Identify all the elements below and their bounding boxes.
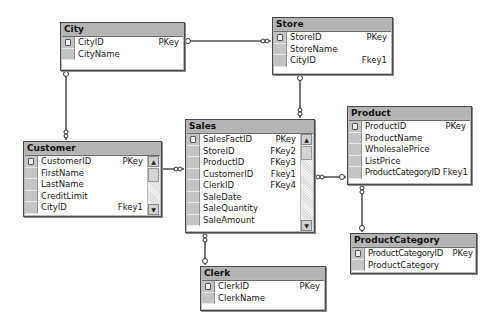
key-end-icon	[64, 72, 69, 77]
scroll-down-button[interactable]: ▼	[301, 220, 312, 231]
key-end-icon	[203, 259, 208, 264]
column-row[interactable]: CreditLimit	[25, 191, 147, 203]
table-productcategory[interactable]: ProductCategory ProductCategoryID PKey P…	[350, 233, 477, 274]
key-end-icon	[340, 175, 345, 180]
column-row[interactable]: CityID Fkey1	[25, 202, 147, 214]
column-row[interactable]: StoreName	[274, 44, 391, 56]
table-city[interactable]: City CityID PKey CityName	[60, 22, 185, 71]
scroll-thumb[interactable]	[301, 146, 312, 160]
column-row[interactable]: CityID Fkey1	[274, 55, 391, 67]
table-title: ProductCategory	[351, 234, 476, 246]
infinity-end-icon	[360, 186, 364, 194]
vertical-scrollbar[interactable]: ▲ ▼	[300, 134, 313, 231]
column-row[interactable]: SaleAmount	[187, 215, 300, 227]
table-title: Product	[348, 107, 471, 119]
column-row[interactable]: ProductCategory	[352, 260, 475, 272]
infinity-end-icon	[203, 234, 207, 242]
primary-key-icon	[277, 34, 283, 41]
column-row[interactable]: LastName	[25, 179, 147, 191]
column-row[interactable]: WholesalePrice	[349, 144, 470, 156]
table-clerk[interactable]: Clerk ClerkID PKey ClerkName	[200, 266, 326, 311]
column-row[interactable]: SaleQuantity	[187, 203, 300, 215]
table-title: Clerk	[201, 267, 325, 279]
primary-key-icon	[355, 250, 361, 257]
column-row[interactable]: ProductID FKey3	[187, 157, 300, 169]
primary-key-icon	[65, 39, 71, 46]
column-row[interactable]: SaleDate	[187, 192, 300, 204]
infinity-end-icon	[316, 175, 324, 179]
table-title: Store	[273, 18, 392, 30]
key-end-icon	[298, 76, 303, 81]
column-row[interactable]: CityID PKey	[62, 37, 183, 49]
column-row[interactable]: StoreID PKey	[274, 32, 391, 44]
scroll-down-button[interactable]: ▼	[148, 204, 159, 215]
column-row[interactable]: ProductCategoryID PKey	[352, 248, 475, 260]
column-row[interactable]: ProductCategoryID Fkey1	[349, 167, 470, 179]
column-row[interactable]: ListPrice	[349, 156, 470, 168]
column-row[interactable]: StoreID FKey2	[187, 146, 300, 158]
scroll-thumb[interactable]	[148, 168, 159, 182]
table-store[interactable]: Store StoreID PKey StoreName CityID Fkey…	[272, 17, 393, 75]
primary-key-icon	[190, 136, 196, 143]
vertical-scrollbar[interactable]: ▲ ▼	[147, 156, 160, 215]
column-row[interactable]: ProductID PKey	[349, 121, 470, 133]
table-product[interactable]: Product ProductID PKey ProductName Whole…	[347, 106, 472, 185]
primary-key-icon	[352, 123, 358, 130]
key-end-icon	[186, 39, 191, 44]
primary-key-icon	[205, 283, 211, 290]
column-row[interactable]: SalesFactID PKey	[187, 134, 300, 146]
infinity-end-icon	[174, 167, 182, 171]
table-title: Sales	[186, 120, 314, 132]
table-sales[interactable]: Sales SalesFactID PKey StoreID FKey2 Pro…	[185, 119, 315, 233]
column-row[interactable]: CustomerID PKey	[25, 156, 147, 168]
column-row[interactable]: ClerkID PKey	[202, 281, 324, 293]
infinity-end-icon	[261, 39, 269, 43]
table-title: Customer	[24, 142, 161, 154]
table-customer[interactable]: Customer CustomerID PKey FirstName LastN…	[23, 141, 162, 217]
infinity-end-icon	[64, 130, 68, 138]
column-row[interactable]: ClerkID FKey4	[187, 180, 300, 192]
scroll-up-button[interactable]: ▲	[301, 134, 312, 145]
column-row[interactable]: ProductName	[349, 133, 470, 145]
column-row[interactable]: FirstName	[25, 168, 147, 180]
infinity-end-icon	[298, 108, 302, 116]
primary-key-icon	[28, 158, 34, 165]
key-end-icon	[360, 226, 365, 231]
column-row[interactable]: CityName	[62, 49, 183, 61]
column-row[interactable]: ClerkName	[202, 293, 324, 305]
scroll-up-button[interactable]: ▲	[148, 156, 159, 167]
column-row[interactable]: CustomerID Fkey1	[187, 169, 300, 181]
table-title: City	[61, 23, 184, 35]
